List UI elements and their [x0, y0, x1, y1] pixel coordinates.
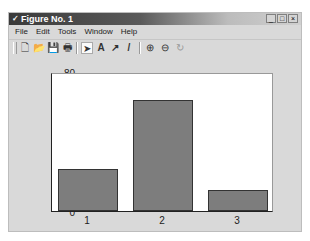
x-tick-2: 2	[159, 215, 165, 226]
insert-text-icon[interactable]: A	[95, 42, 107, 54]
bar-1[interactable]	[58, 169, 118, 211]
x-tick-3: 3	[234, 215, 240, 226]
zoom-out-icon[interactable]: ⊖	[159, 42, 171, 54]
menu-file[interactable]: File	[15, 26, 28, 38]
insert-arrow-icon[interactable]: ↗	[109, 42, 121, 54]
plot-axes[interactable]	[51, 73, 273, 212]
minimize-button[interactable]: _	[266, 14, 276, 23]
rotate-icon[interactable]: ↻	[174, 42, 186, 54]
title-bar[interactable]: ✓ Figure No. 1 _ □ ×	[9, 13, 301, 25]
close-button[interactable]: ×	[288, 14, 298, 23]
toolbar: 🗋 📂 💾 🖶 ➤ A ↗ / ⊕ ⊖ ↻	[9, 39, 301, 56]
matlab-logo-icon: ✓	[12, 14, 19, 23]
toolbar-grip[interactable]	[13, 42, 17, 54]
menu-help[interactable]: Help	[121, 26, 137, 38]
maximize-button[interactable]: □	[277, 14, 287, 23]
x-tick-1: 1	[84, 215, 90, 226]
window-title: Figure No. 1	[21, 13, 73, 25]
select-arrow-icon[interactable]: ➤	[81, 42, 93, 54]
menu-edit[interactable]: Edit	[36, 26, 50, 38]
toolbar-separator	[139, 42, 141, 54]
save-icon[interactable]: 💾	[47, 42, 59, 54]
insert-line-icon[interactable]: /	[123, 42, 135, 54]
figure-canvas: 80 60 40 20 0 1 2 3	[9, 57, 301, 233]
menu-tools[interactable]: Tools	[58, 26, 77, 38]
toolbar-separator	[76, 42, 78, 54]
bar-3[interactable]	[208, 190, 268, 211]
menu-window[interactable]: Window	[84, 26, 112, 38]
menu-bar: File Edit Tools Window Help	[9, 26, 307, 38]
figure-window: ✓ Figure No. 1 _ □ × File Edit Tools Win…	[8, 12, 302, 232]
new-file-icon[interactable]: 🗋	[19, 42, 31, 54]
zoom-in-icon[interactable]: ⊕	[144, 42, 156, 54]
bar-2[interactable]	[133, 100, 193, 211]
print-icon[interactable]: 🖶	[61, 42, 73, 54]
open-folder-icon[interactable]: 📂	[33, 42, 45, 54]
